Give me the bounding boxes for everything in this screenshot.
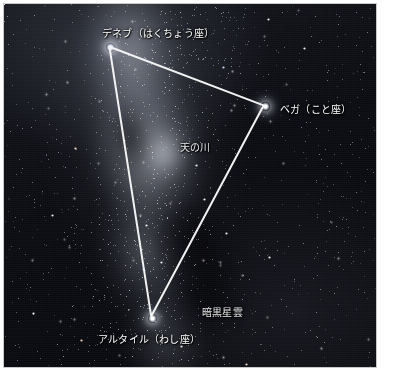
label-dark-nebula: 暗黒星雲: [202, 307, 243, 319]
label-altair: アルタイル（わし座）: [98, 334, 200, 346]
summer-triangle-overlay: [4, 4, 376, 367]
label-vega: ベガ（こと座）: [280, 104, 351, 116]
label-milky-way: 天の川: [180, 142, 211, 154]
astrophoto-frame: デネブ（はくちょう座） ベガ（こと座） アルタイル（わし座） 天の川 暗黒星雲: [3, 3, 377, 368]
label-deneb: デネブ（はくちょう座）: [102, 28, 214, 40]
